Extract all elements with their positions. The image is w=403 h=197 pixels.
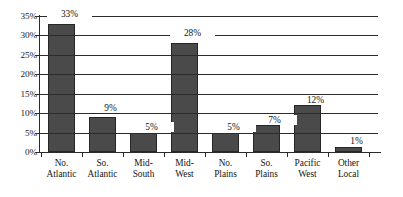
category-label-line-1: Mid-	[163, 158, 206, 169]
bar-value-label-no-atlantic: 33%	[47, 9, 92, 19]
category-label-line-2: Local	[327, 169, 370, 180]
category-label-line-1: Other	[327, 158, 370, 169]
bar-chart-figure: 35% 30% 25% 20% 15% 10% 5% 0%	[0, 0, 403, 197]
gridline-10	[40, 113, 378, 114]
x-axis-tick-mark	[287, 152, 288, 157]
x-axis-tick-mark	[205, 152, 206, 157]
y-axis-tick-label: 25%	[5, 51, 37, 60]
x-axis-tick-mark	[41, 152, 42, 157]
category-label-line-1: No.	[204, 158, 247, 169]
bar-mid-south	[130, 133, 157, 152]
bar-mid-west	[171, 43, 198, 152]
x-axis-category-label-pacific-west: Pacific West	[286, 158, 329, 180]
gridline-20	[40, 74, 378, 75]
x-axis-category-label-mid-south: Mid- South	[122, 158, 165, 180]
bar-no-plains	[212, 133, 239, 152]
bar-value-label-so-atlantic: 9%	[88, 103, 133, 113]
category-label-line-1: Mid-	[122, 158, 165, 169]
bar-so-plains	[253, 125, 280, 152]
x-axis-category-label-mid-west: Mid- West	[163, 158, 206, 180]
category-label-line-1: So.	[81, 158, 124, 169]
category-label-line-2: Plains	[204, 169, 247, 180]
x-axis-category-label-so-atlantic: So. Atlantic	[81, 158, 124, 180]
y-axis-tick-label: 10%	[5, 109, 37, 118]
category-label-line-1: Pacific	[286, 158, 329, 169]
x-axis-category-label-no-atlantic: No. Atlantic	[40, 158, 83, 180]
bar-value-label-mid-south: 5%	[129, 122, 174, 132]
category-label-line-2: West	[286, 169, 329, 180]
x-axis-category-label-no-plains: No. Plains	[204, 158, 247, 180]
category-label-line-2: Atlantic	[81, 169, 124, 180]
bar-value-label-pacific-west: 12%	[293, 95, 338, 105]
bar-value-label-so-plains: 7%	[252, 115, 297, 125]
y-axis-tick-label: 0%	[5, 148, 37, 157]
gridline-25	[40, 55, 378, 56]
x-axis-baseline	[36, 152, 381, 153]
category-label-line-1: No.	[40, 158, 83, 169]
bar-value-label-other-local: 1%	[334, 136, 379, 146]
x-axis-tick-mark	[82, 152, 83, 157]
x-axis-tick-mark	[164, 152, 165, 157]
category-label-line-2: South	[122, 169, 165, 180]
x-axis-category-label-so-plains: So. Plains	[245, 158, 288, 180]
category-label-line-2: Plains	[245, 169, 288, 180]
gridline-5	[40, 133, 378, 134]
y-axis-tick-label: 20%	[5, 70, 37, 79]
y-axis-tick-label: 5%	[5, 129, 37, 138]
category-label-line-2: Atlantic	[40, 169, 83, 180]
y-axis-tick-label: 35%	[5, 12, 37, 21]
x-axis-tick-mark	[123, 152, 124, 157]
bar-value-label-mid-west: 28%	[170, 28, 215, 38]
bar-so-atlantic	[89, 117, 116, 152]
y-axis-tick-label: 30%	[5, 31, 37, 40]
y-axis-tick-label: 15%	[5, 90, 37, 99]
x-axis-tick-mark	[328, 152, 329, 157]
x-axis-tick-mark	[369, 152, 370, 157]
category-label-line-1: So.	[245, 158, 288, 169]
x-axis-tick-mark	[246, 152, 247, 157]
x-axis-category-label-other-local: Other Local	[327, 158, 370, 180]
category-label-line-2: West	[163, 169, 206, 180]
bar-value-label-no-plains: 5%	[211, 122, 256, 132]
